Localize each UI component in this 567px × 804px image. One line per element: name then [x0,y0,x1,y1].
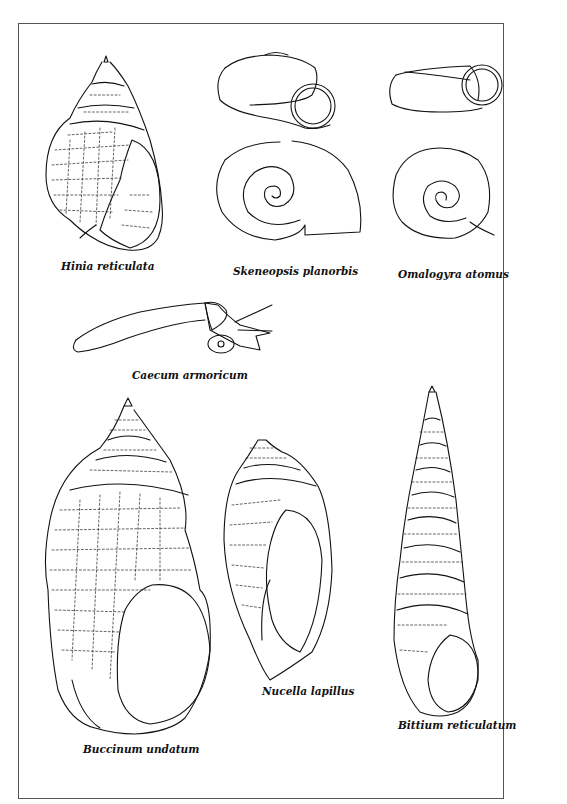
caecum-armoricum-drawing [73,302,272,353]
hinia-reticulata-drawing [46,56,163,250]
bittium-reticulatum-drawing [394,386,478,716]
label-bittium-reticulatum: Bittium reticulatum [398,719,516,731]
label-skeneopsis-planorbis: Skeneopsis planorbis [233,265,358,277]
label-caecum-armoricum: Caecum armoricum [132,369,248,381]
skeneopsis-planorbis-drawing [217,53,361,241]
buccinum-undatum-drawing [45,398,210,734]
label-buccinum-undatum: Buccinum undatum [83,743,199,755]
label-omalogyra-atomus: Omalogyra atomus [398,268,509,280]
shell-illustrations [0,0,567,804]
label-nucella-lapillus: Nucella lapillus [262,685,354,697]
omalogyra-atomus-drawing [390,65,502,238]
label-hinia-reticulata: Hinia reticulata [61,260,155,272]
nucella-lapillus-drawing [224,440,332,680]
